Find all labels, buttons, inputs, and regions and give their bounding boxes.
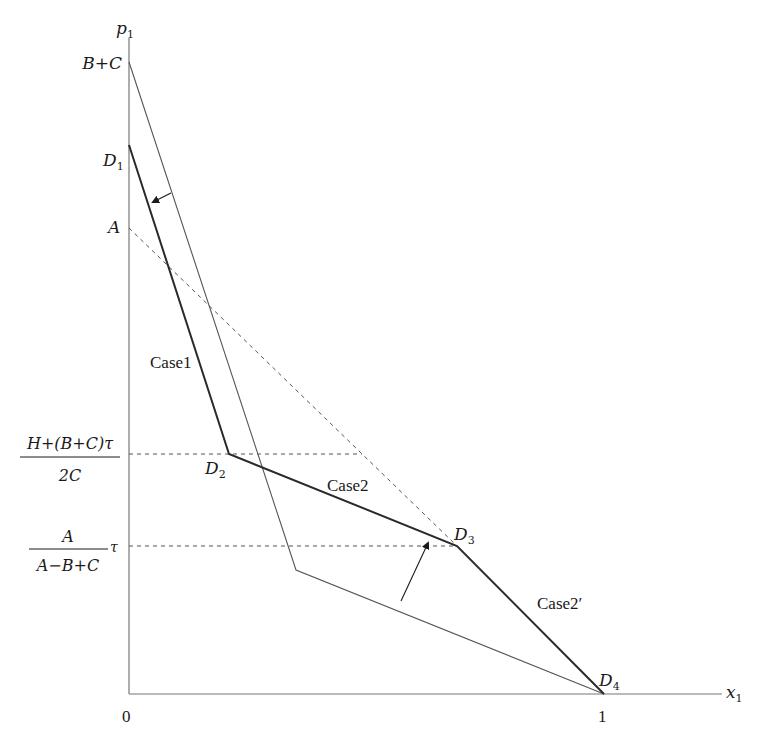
thin-curve bbox=[129, 62, 604, 694]
frac1-denominator: 2C bbox=[58, 466, 81, 485]
label-d3: D3 bbox=[453, 524, 475, 547]
label-case2: Case2 bbox=[327, 476, 369, 495]
frac2-denominator: A−B+C bbox=[35, 556, 99, 575]
label-case2-prime: Case2′ bbox=[537, 594, 582, 613]
shift-arrow-lower bbox=[401, 543, 428, 601]
diagram-canvas: p1 x1 0 1 B+C D1 A H+(B+C)τ 2C A A−B+C τ… bbox=[0, 0, 764, 732]
x-axis-label: x1 bbox=[726, 682, 743, 705]
x-tick-one: 1 bbox=[598, 707, 607, 726]
frac2-tau: τ bbox=[110, 539, 118, 555]
label-case1: Case1 bbox=[150, 353, 192, 372]
label-d1: D1 bbox=[102, 150, 124, 173]
frac1-numerator: H+(B+C)τ bbox=[26, 434, 114, 453]
frac2-numerator: A bbox=[60, 527, 74, 546]
origin-label: 0 bbox=[122, 707, 131, 726]
y-axis-label: p1 bbox=[116, 18, 134, 41]
label-b-plus-c: B+C bbox=[81, 53, 122, 73]
label-d4: D4 bbox=[598, 670, 620, 693]
shift-arrow-upper bbox=[153, 193, 171, 202]
label-a: A bbox=[106, 217, 120, 237]
thick-curve bbox=[129, 145, 604, 694]
dashed-line-a bbox=[129, 228, 457, 546]
label-d2: D2 bbox=[204, 458, 226, 481]
